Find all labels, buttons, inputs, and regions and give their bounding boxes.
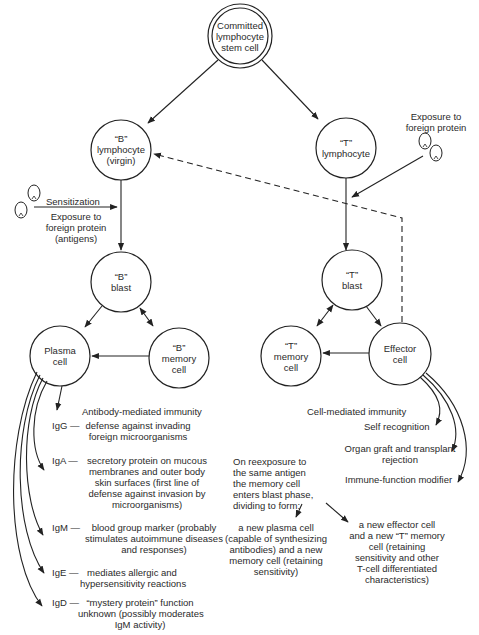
ig-item-igd: IgD — “mystery protein” function unknown… [52,597,232,633]
effector-cell-label: Effector cell [365,343,435,365]
new-effector-cell-text: a new effector cell and a new “T” memory… [337,519,457,585]
ig-item-igg: IgG — defense against invading foreign m… [52,420,232,444]
t-memory-cell-label: “T” memory cell [256,340,326,373]
ig-item-igm: IgM — blood group marker (probably stimu… [52,522,232,558]
edge-bblast-to-plasma [85,306,102,327]
edge-tblast-to-effector [366,306,381,326]
edge-stem-to-t [262,60,318,119]
immune-function-modifier-label: Immune-function modifier [345,474,452,485]
ig-item-iga: IgA — secretory protein on mucous membra… [52,455,232,515]
ig-item-ige: IgE — mediates allergic and hypersensiti… [52,567,232,591]
b-memory-cell-label: “B” memory cell [144,342,214,375]
self-recognition-label: Self recognition [364,421,429,432]
edge-tblast-tmemory [317,305,333,326]
edge-bblast-bmemory [140,308,153,326]
lymphocyte-differentiation-diagram: Committed lymphocyte stem cell “B” lymph… [0,0,479,635]
b-blast-label: “B” blast [86,271,156,293]
t-lymphocyte-label: “T” lymphocyte [311,137,381,159]
b-lymphocyte-label: “B” lymphocyte (virgin) [86,133,156,166]
sensitization-label: Sensitization [46,196,100,207]
stem-cell-label: Committed lymphocyte stem cell [205,20,275,53]
new-plasma-cell-text: a new plasma cell (capable of synthesizi… [216,522,336,577]
plasma-cell-label: Plasma cell [25,345,95,367]
exposure-b-label: Exposure to foreign protein (antigens) [36,211,116,244]
organ-graft-label: Organ graft and transplant rejection [340,443,460,465]
reexposure-text: On reexposure to the same antigen the me… [233,456,313,511]
exposure-t-label: Exposure to foreign protein [396,111,476,133]
antibody-mediated-immunity-label: Antibody-mediated immunity [82,406,202,417]
cell-mediated-immunity-label: Cell-mediated immunity [307,406,406,417]
t-blast-label: “T” blast [317,269,387,291]
edge-stem-to-b [148,60,218,123]
